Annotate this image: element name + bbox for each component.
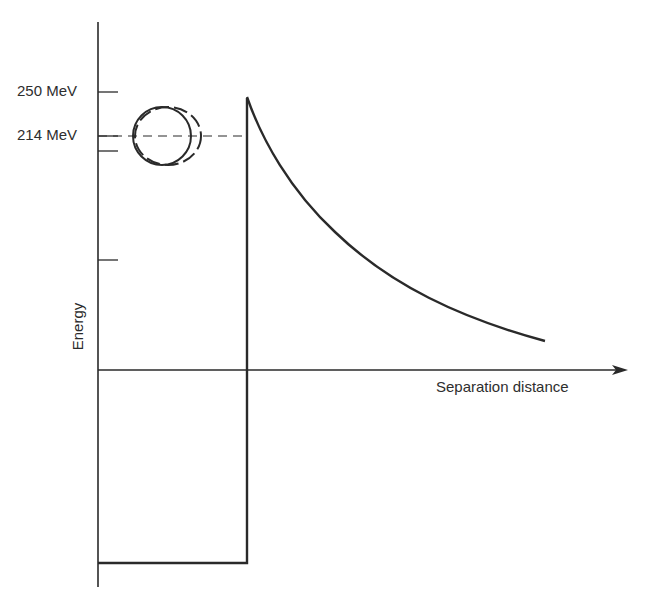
potential-well [98,98,247,563]
coulomb-curve [247,97,545,341]
energy-diagram [0,0,649,600]
x-axis-label: Separation distance [436,378,569,395]
y-axis-label: Energy [69,297,86,357]
y-tick-label-250: 250 MeV [17,82,77,99]
y-tick-label-214: 214 MeV [17,126,77,143]
